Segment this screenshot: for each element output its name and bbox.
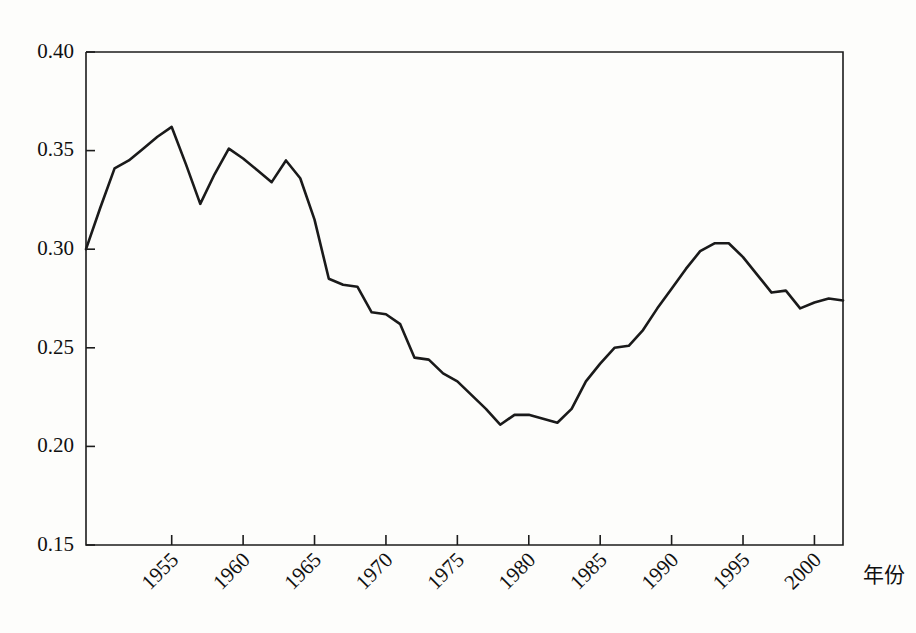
y-axis-tick-label: 0.30: [37, 236, 74, 260]
chart-figure: 0.150.200.250.300.350.401955196019651970…: [0, 0, 916, 633]
x-axis-tick-label: 1990: [636, 548, 683, 595]
x-axis-tick-label: 2000: [779, 548, 826, 595]
y-axis-tick-label: 0.35: [37, 137, 74, 161]
x-axis-title: 年份: [863, 563, 905, 587]
x-axis-tick-label: 1985: [565, 548, 612, 595]
x-axis-tick-label: 1995: [708, 548, 755, 595]
x-axis-tick-label: 1975: [422, 548, 469, 595]
x-axis-tick-label: 1965: [279, 548, 326, 595]
x-axis-tick-label: 1970: [351, 548, 398, 595]
y-axis-tick-label: 0.15: [37, 532, 74, 556]
data-series-line: [86, 127, 843, 425]
line-chart-svg: 0.150.200.250.300.350.401955196019651970…: [0, 0, 916, 633]
x-axis-tick-label: 1955: [137, 548, 184, 595]
plot-frame: [86, 52, 843, 545]
y-axis-tick-label: 0.20: [37, 433, 74, 457]
y-axis-tick-label: 0.40: [37, 39, 74, 63]
y-axis-tick-label: 0.25: [37, 335, 74, 359]
x-axis-tick-label: 1960: [208, 548, 255, 595]
x-axis-tick-label: 1980: [494, 548, 541, 595]
